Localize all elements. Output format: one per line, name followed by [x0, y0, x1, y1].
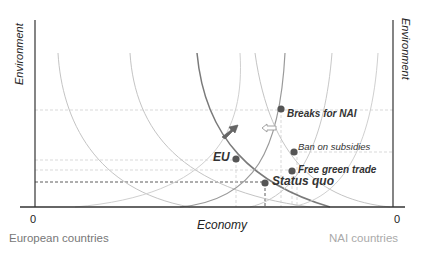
diagram-canvas	[0, 0, 425, 255]
y-axis-label-left: Environment	[13, 23, 25, 85]
eu-shift-arrow	[222, 125, 238, 139]
european-countries-caption: European countries	[9, 232, 109, 244]
x-axis-label: Economy	[197, 218, 247, 232]
label-breaks-for-nai: Breaks for NAI	[287, 108, 356, 119]
origin-left-label: 0	[30, 213, 36, 225]
label-eu: EU	[213, 150, 230, 164]
origin-right-label: 0	[394, 213, 400, 225]
point-eu	[232, 155, 239, 162]
label-status-quo: Status quo	[272, 174, 334, 188]
label-ban-on-subsidies: Ban on subsidies	[298, 141, 370, 152]
point-status-quo	[261, 179, 268, 186]
nai-countries-caption: NAI countries	[329, 232, 398, 244]
y-axis-label-right: Environment	[400, 18, 412, 80]
point-breaks-for-nai	[277, 105, 284, 112]
indifference-diagram: Environment Environment Economy 0 0 Euro…	[0, 0, 425, 255]
point-ban-on-subsidies	[290, 148, 297, 155]
